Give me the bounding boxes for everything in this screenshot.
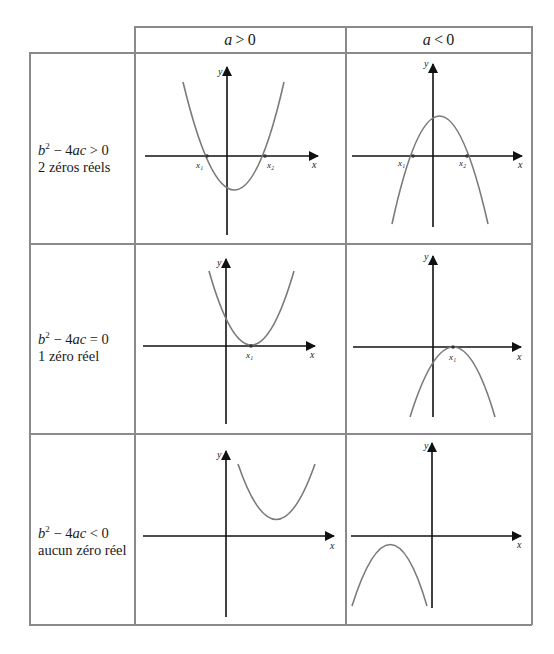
y-axis-label: y — [423, 440, 429, 451]
table-bottom-border — [29, 624, 532, 626]
row-label-no-zero: b2 − 4ac < 0 aucun zéro réel — [38, 521, 134, 559]
x-axis-label: x — [517, 159, 523, 170]
column-header-a-positive: a > 0 — [135, 27, 345, 52]
graph-downward-no-zero: y x — [346, 434, 531, 624]
zero-label-x2: x₂ — [458, 158, 466, 168]
zero-label-x1: x₁ — [195, 160, 203, 170]
parabola-curve — [183, 82, 284, 190]
table-left-border — [29, 52, 31, 625]
cond-mid: − 4 — [50, 525, 73, 541]
header-rhs: 0 — [248, 31, 256, 49]
y-axis-label: y — [423, 251, 429, 262]
header-var: a — [423, 31, 431, 49]
zero-point-x2 — [263, 154, 267, 158]
zero-point-x1 — [205, 154, 209, 158]
cond-mid: − 4 — [50, 142, 73, 158]
parabola-curve — [209, 271, 294, 345]
cond-rest: < 0 — [86, 525, 109, 541]
parabola-curve — [392, 116, 488, 224]
row-label-one-zero: b2 − 4ac = 0 1 zéro réel — [38, 327, 134, 365]
cond-rest: = 0 — [86, 331, 109, 347]
zero-point-x1 — [451, 345, 455, 349]
zero-count-description: 2 zéros réels — [38, 159, 134, 176]
y-axis-label: y — [217, 66, 223, 77]
header-operator: < — [434, 31, 443, 49]
zero-point-x1 — [249, 344, 253, 348]
parabola-curve — [238, 464, 315, 520]
y-axis-label: y — [216, 449, 222, 460]
zero-count-description: aucun zéro réel — [38, 542, 134, 559]
zero-label-x1: x₁ — [448, 352, 456, 362]
zero-count-description: 1 zéro réel — [38, 348, 134, 365]
cond-rest: > 0 — [86, 142, 109, 158]
x-axis-label: x — [311, 159, 317, 170]
x-axis-label: x — [516, 351, 522, 362]
graph-upward-one-zero: y x x₁ — [135, 244, 345, 433]
cond-mid: − 4 — [50, 331, 73, 347]
y-axis-label: y — [423, 58, 429, 69]
zero-point-x1 — [411, 154, 415, 158]
cond-ac: ac — [72, 142, 86, 158]
graph-upward-no-zero: y x — [135, 434, 345, 624]
y-axis-label: y — [216, 257, 222, 268]
x-axis-label: x — [309, 349, 315, 360]
column-header-a-negative: a < 0 — [346, 27, 531, 52]
discriminant-condition: b2 − 4ac = 0 — [38, 327, 134, 348]
zero-label-x1: x₁ — [397, 158, 405, 168]
discriminant-condition: b2 − 4ac > 0 — [38, 138, 134, 159]
zero-label-x2: x₂ — [266, 160, 274, 170]
header-rhs: 0 — [446, 31, 454, 49]
row-label-two-zeros: b2 − 4ac > 0 2 zéros réels — [38, 138, 134, 176]
header-var: a — [224, 31, 232, 49]
cond-ac: ac — [72, 525, 86, 541]
graph-downward-one-zero: y x x₁ — [346, 244, 531, 433]
graph-upward-two-zeros: y x x₁ x₂ — [135, 53, 345, 243]
header-operator: > — [235, 31, 244, 49]
zero-label-x1: x₁ — [245, 350, 253, 360]
x-axis-label: x — [516, 539, 522, 550]
cond-ac: ac — [72, 331, 86, 347]
x-axis-label: x — [329, 540, 335, 551]
parabola-curve — [352, 545, 427, 607]
table-right-border — [531, 26, 533, 625]
discriminant-condition: b2 − 4ac < 0 — [38, 521, 134, 542]
graph-downward-two-zeros: y x x₁ x₂ — [346, 53, 531, 243]
